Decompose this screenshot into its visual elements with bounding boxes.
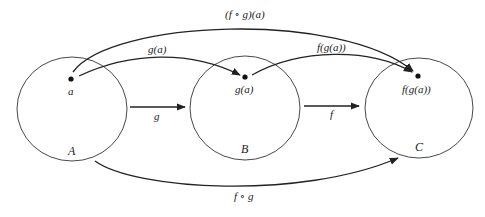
set-c-label: C	[415, 140, 424, 154]
arrow-element-f-compose-g-a-label: (f ∘ g)(a)	[225, 8, 265, 21]
arrow-element-ga-label: g(a)	[148, 43, 167, 56]
element-ga-label: g(a)	[235, 83, 254, 96]
element-a-dot	[68, 76, 73, 81]
arrow-g-label: g	[154, 110, 160, 122]
arrow-f-compose-g	[95, 158, 398, 186]
arrow-element-fga-label: f(g(a))	[317, 41, 346, 54]
arrow-f-compose-g-label: f ∘ g	[234, 190, 254, 202]
arrow-element-f-compose-g-a	[73, 29, 413, 72]
composition-diagram: A B C a g(a) f(g(a)) g f f ∘ g g(a) f(g(…	[0, 0, 485, 217]
set-b-label: B	[241, 142, 249, 156]
arrow-element-ga	[79, 57, 240, 76]
element-fga-dot	[415, 73, 420, 78]
arrow-f-label: f	[330, 108, 335, 120]
element-a-label: a	[68, 85, 74, 97]
element-fga-label: f(g(a))	[402, 83, 431, 96]
element-ga-dot	[242, 74, 247, 79]
arrow-element-fga	[252, 54, 412, 75]
set-a-label: A	[67, 144, 76, 158]
